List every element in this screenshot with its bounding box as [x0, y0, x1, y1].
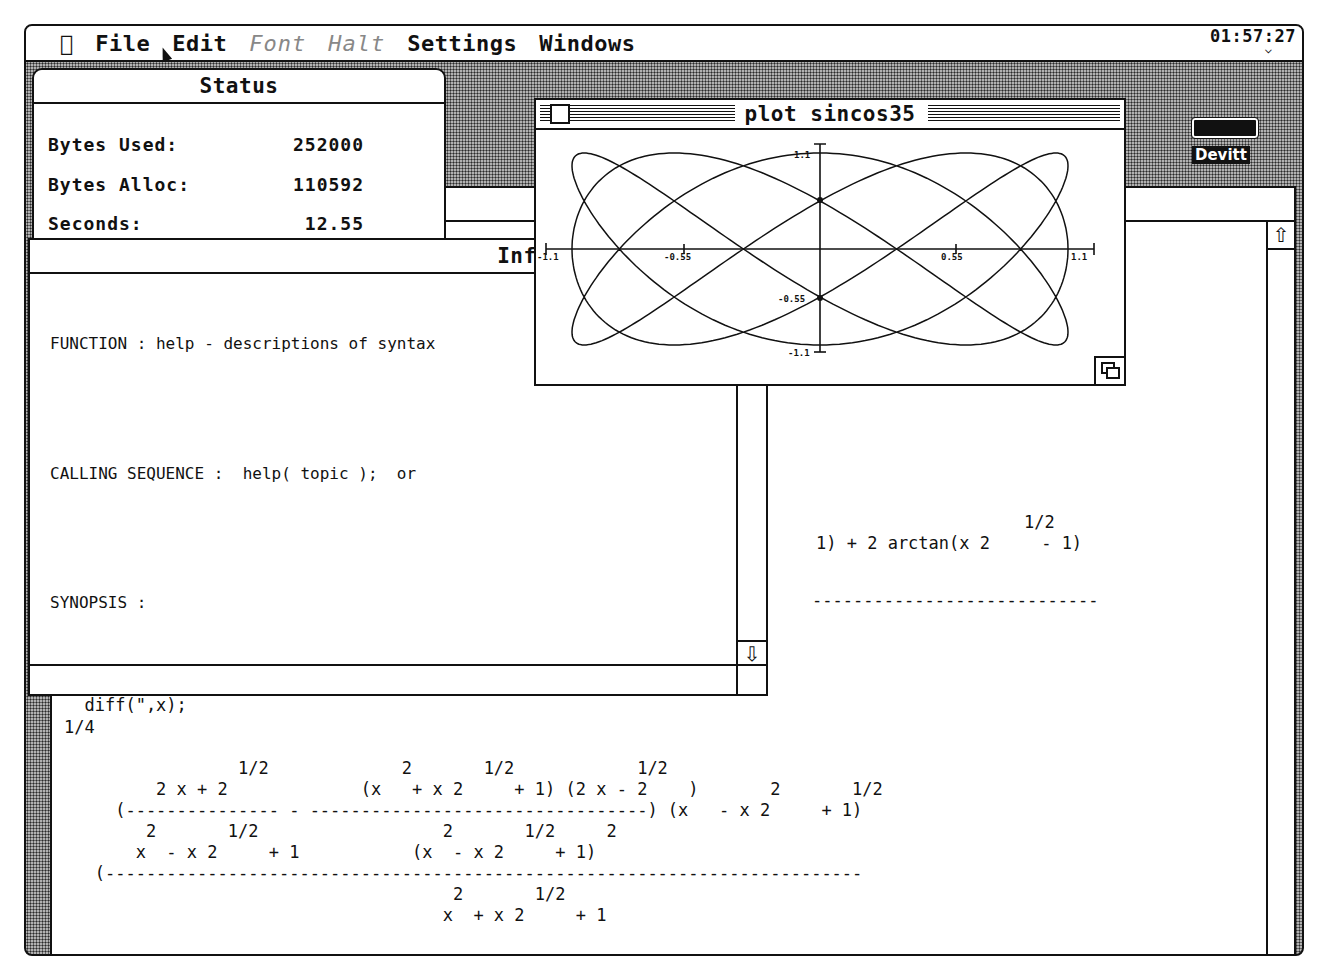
help-line: help( intro ); introduction to Maple: [50, 657, 738, 658]
worksheet-vertical-scrollbar[interactable]: ⇧: [1266, 222, 1294, 954]
math-line-1: 1/2 2 1/2 1/2: [64, 758, 668, 779]
status-window: Status Bytes Used: 252000 Bytes Alloc: 1…: [32, 68, 446, 244]
plot-title: plot sincos35: [735, 102, 926, 126]
grow-box-front: [1106, 367, 1120, 379]
help-line: [50, 528, 738, 550]
status-title: Status: [200, 74, 279, 98]
math-line-8: x + x 2 + 1: [64, 905, 606, 926]
seconds-value: 12.55: [244, 213, 364, 234]
menu-bar:  File Edit Font Halt Settings Windows 0…: [26, 26, 1302, 62]
lissajous-plot: -1.1 -0.55 0.55 1.1 1.1 -0.55 -1.1: [536, 130, 1124, 384]
bytes-alloc-label: Bytes Alloc:: [48, 174, 190, 195]
math-line-2: 2 x + 2 (x + x 2 + 1) (2 x - 2 ) 2 1/2: [64, 779, 883, 800]
math-line-6: (---------------------------------------…: [64, 863, 862, 884]
plot-window: plot sincos35 -1.1 -0.55 0.55: [534, 98, 1126, 386]
x-tick-label: -1.1: [537, 252, 559, 262]
close-box-icon[interactable]: [550, 104, 570, 124]
bytes-used-label: Bytes Used:: [48, 134, 178, 155]
menu-font[interactable]: Font: [249, 31, 306, 56]
help-size-box[interactable]: [736, 664, 766, 694]
result-coefficient: 1/4: [64, 717, 95, 738]
seconds-label: Seconds:: [48, 213, 143, 234]
menu-windows[interactable]: Windows: [539, 31, 635, 56]
x-tick-label: -0.55: [664, 252, 691, 262]
result-exponent: 1/2: [1024, 512, 1055, 533]
math-line-5: x - x 2 + 1 (x - x 2 + 1): [64, 842, 596, 863]
title-stripes: [928, 105, 1120, 123]
scroll-down-arrow-icon[interactable]: ⇩: [738, 640, 766, 666]
scroll-up-arrow-icon[interactable]: ⇧: [1268, 222, 1294, 250]
status-titlebar[interactable]: Status: [34, 70, 444, 104]
math-line-7: 2 1/2: [64, 884, 566, 905]
disk-icon[interactable]: [1192, 118, 1258, 138]
menu-file[interactable]: File: [95, 31, 150, 56]
grow-box-icon[interactable]: [1094, 356, 1124, 384]
math-line-4: 2 1/2 2 1/2 2: [64, 821, 617, 842]
desktop-screen:  File Edit Font Halt Settings Windows 0…: [24, 24, 1304, 956]
y-tick-label: -1.1: [788, 348, 810, 358]
input-command[interactable]: diff(",x);: [64, 695, 187, 716]
help-horizontal-scrollbar[interactable]: [30, 664, 766, 694]
menu-halt[interactable]: Halt: [328, 31, 385, 56]
result-line: 1) + 2 arctan(x 2 - 1): [816, 533, 1082, 554]
help-line: [50, 398, 738, 420]
bytes-used-value: 252000: [244, 134, 364, 155]
help-line: SYNOPSIS :: [50, 592, 738, 614]
x-tick-label: 0.55: [941, 252, 963, 262]
disk-label[interactable]: Devitt: [1192, 146, 1250, 164]
apple-menu-icon[interactable]: : [60, 31, 73, 56]
plot-titlebar[interactable]: plot sincos35: [536, 100, 1124, 130]
bytes-alloc-value: 110592: [244, 174, 364, 195]
menu-settings[interactable]: Settings: [407, 31, 517, 56]
alarm-icon: ⌵: [1265, 43, 1272, 55]
menu-edit[interactable]: Edit: [172, 31, 227, 56]
y-tick-label: 1.1: [794, 150, 810, 160]
math-line-3: (--------------- - ---------------------…: [64, 800, 862, 821]
result-rule: ----------------------------: [812, 590, 1099, 611]
title-stripes: [540, 105, 760, 123]
menu-clock: 01:57:27: [1210, 26, 1296, 46]
y-tick-label: -0.55: [778, 294, 805, 304]
x-tick-label: 1.1: [1071, 252, 1087, 262]
help-line: CALLING SEQUENCE : help( topic ); or: [50, 463, 738, 485]
